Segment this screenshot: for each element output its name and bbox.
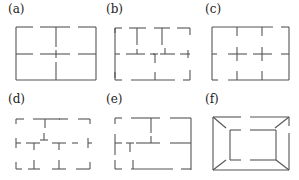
line-segment — [213, 117, 226, 128]
line-segment — [276, 160, 289, 170]
panel-e-diagram — [115, 118, 191, 170]
panel-b-diagram — [115, 28, 190, 80]
line-diagrams — [0, 0, 299, 180]
line-segment — [213, 160, 226, 170]
panel-a-diagram — [16, 27, 96, 80]
line-segment — [275, 117, 289, 128]
panel-c-diagram — [212, 27, 289, 80]
panel-d-diagram — [16, 119, 92, 169]
panel-f-diagram — [213, 117, 289, 170]
